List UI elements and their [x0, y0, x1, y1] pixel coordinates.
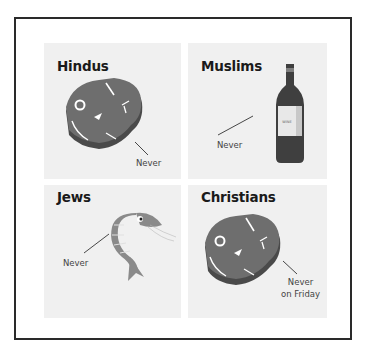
rule-text: Never: [217, 139, 242, 151]
rule-line-2: on Friday: [281, 288, 320, 300]
wine-bottle-icon: WINE: [188, 43, 327, 179]
rule-text: Never: [136, 157, 161, 169]
rule-line-1: Never: [281, 276, 320, 288]
panel-christians: Christians Never on Friday: [188, 185, 327, 318]
bottle-label: WINE: [282, 120, 291, 124]
panel-hindus: Hindus Never: [44, 43, 181, 179]
shrimp-icon: [44, 185, 181, 318]
panel-muslims: Muslims WINE Never: [188, 43, 327, 179]
rule-text: Never: [63, 257, 88, 269]
rule-text: Never on Friday: [281, 276, 320, 300]
panel-jews: Jews Never: [44, 185, 181, 318]
